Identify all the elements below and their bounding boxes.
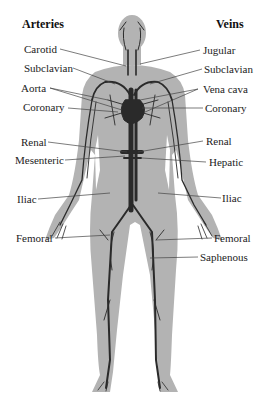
label-hepatic: Hepatic	[209, 156, 243, 168]
circulatory-system-diagram: Arteries Veins Carotid Subclavian Aorta …	[0, 0, 265, 410]
label-renal-vein: Renal	[206, 135, 232, 147]
label-subclavian-artery: Subclavian	[24, 62, 73, 74]
label-mesenteric: Mesenteric	[15, 154, 64, 166]
label-jugular: Jugular	[203, 44, 235, 56]
label-renal-artery: Renal	[21, 136, 47, 148]
label-subclavian-vein: Subclavian	[204, 63, 253, 75]
arteries-heading: Arteries	[22, 18, 64, 31]
label-vena-cava: Vena cava	[203, 83, 248, 95]
label-coronary-vein: Coronary	[205, 102, 247, 114]
label-aorta: Aorta	[21, 82, 46, 94]
label-iliac-artery: Iliac	[17, 193, 37, 205]
label-saphenous: Saphenous	[200, 251, 248, 263]
label-carotid: Carotid	[24, 43, 57, 55]
veins-heading: Veins	[216, 18, 244, 31]
label-coronary-artery: Coronary	[23, 101, 65, 113]
label-femoral-vein: Femoral	[214, 232, 251, 244]
label-femoral-artery: Femoral	[16, 232, 53, 244]
label-iliac-vein: Iliac	[222, 192, 242, 204]
